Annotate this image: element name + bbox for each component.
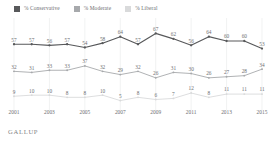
legend-label-conservative: % Conservative — [24, 6, 60, 11]
data-point-conservative-2002 — [31, 43, 33, 45]
data-point-liberal-2009 — [155, 99, 157, 101]
data-point-liberal-2005 — [84, 96, 86, 98]
value-label-moderate-2005: 37 — [82, 58, 88, 64]
data-point-moderate-2015 — [261, 68, 263, 70]
value-label-moderate-2015: 34 — [259, 62, 265, 68]
data-point-moderate-2007 — [119, 74, 121, 76]
x-axis-svg: 20012003200520072009201120132015 — [0, 104, 276, 118]
value-label-conservative-2004: 57 — [64, 37, 70, 43]
data-point-conservative-2008 — [137, 43, 139, 45]
data-point-moderate-2010 — [172, 71, 174, 73]
data-point-liberal-2001 — [13, 95, 15, 97]
x-tick-label-2009: 2009 — [150, 109, 161, 115]
data-point-liberal-2012 — [208, 96, 210, 98]
value-label-conservative-2002: 57 — [29, 37, 35, 43]
value-label-conservative-2003: 56 — [47, 38, 53, 44]
data-point-moderate-2004 — [66, 69, 68, 71]
value-label-liberal-2015: 11 — [259, 86, 264, 92]
data-point-conservative-2004 — [66, 43, 68, 45]
data-point-liberal-2011 — [190, 92, 192, 94]
value-label-conservative-2011: 56 — [188, 38, 194, 44]
value-label-conservative-2006: 58 — [100, 36, 106, 42]
value-label-conservative-2014: 60 — [242, 33, 248, 39]
value-label-conservative-2007: 64 — [118, 29, 124, 35]
value-label-moderate-2003: 33 — [47, 63, 53, 69]
legend-swatch-conservative — [14, 6, 20, 12]
value-label-conservative-2013: 60 — [224, 33, 230, 39]
value-label-liberal-2012: 8 — [208, 90, 211, 96]
data-point-conservative-2006 — [101, 42, 103, 44]
value-label-liberal-2013: 11 — [224, 86, 229, 92]
data-point-liberal-2010 — [172, 97, 174, 99]
data-point-conservative-2011 — [190, 44, 192, 46]
x-tick-label-2011: 2011 — [186, 109, 197, 115]
data-point-liberal-2008 — [137, 96, 139, 98]
legend-label-moderate: % Moderate — [84, 6, 112, 11]
value-label-moderate-2012: 26 — [206, 70, 212, 76]
data-point-moderate-2011 — [190, 73, 192, 75]
value-label-moderate-2011: 30 — [188, 66, 194, 72]
data-point-conservative-2009 — [155, 32, 157, 34]
data-point-liberal-2015 — [261, 93, 263, 95]
x-tick-label-2005: 2005 — [79, 109, 90, 115]
legend-item-conservative: % Conservative — [14, 6, 60, 12]
legend-item-moderate: % Moderate — [74, 6, 112, 12]
value-label-liberal-2003: 10 — [47, 88, 53, 94]
legend-label-liberal: % Liberal — [135, 6, 157, 11]
value-label-conservative-2015: 53 — [259, 41, 265, 47]
value-label-conservative-2008: 57 — [135, 37, 141, 43]
value-label-moderate-2009: 26 — [153, 70, 159, 76]
data-point-moderate-2001 — [13, 70, 15, 72]
value-label-conservative-2005: 54 — [82, 40, 88, 46]
data-point-moderate-2009 — [155, 77, 157, 79]
value-label-conservative-2010: 62 — [171, 31, 177, 37]
value-label-moderate-2001: 32 — [11, 64, 17, 70]
value-label-moderate-2008: 32 — [135, 64, 141, 70]
value-label-liberal-2011: 12 — [188, 85, 194, 91]
value-label-conservative-2009: 67 — [153, 26, 159, 32]
x-tick-label-2007: 2007 — [115, 109, 126, 115]
data-point-conservative-2003 — [48, 44, 50, 46]
source-attribution: GALLUP — [8, 128, 38, 135]
data-point-moderate-2002 — [31, 71, 33, 73]
legend-swatch-moderate — [74, 6, 80, 12]
data-point-conservative-2014 — [243, 40, 245, 42]
legend-swatch-liberal — [125, 6, 131, 12]
data-point-liberal-2013 — [226, 93, 228, 95]
data-point-conservative-2010 — [172, 38, 174, 40]
value-label-moderate-2002: 31 — [29, 65, 35, 71]
value-label-moderate-2014: 28 — [242, 68, 248, 74]
chart-container: % Conservative% Moderate% Liberal 575756… — [0, 0, 276, 149]
data-point-conservative-2012 — [208, 36, 210, 38]
value-label-liberal-2004: 8 — [66, 90, 69, 96]
value-label-moderate-2006: 32 — [100, 64, 106, 70]
plot-area: 5757565754586457676256646060533231333337… — [0, 18, 276, 110]
x-tick-label-2015: 2015 — [257, 109, 268, 115]
data-point-conservative-2005 — [84, 46, 86, 48]
value-label-liberal-2008: 8 — [137, 90, 140, 96]
value-label-moderate-2007: 29 — [118, 67, 124, 73]
value-label-conservative-2012: 64 — [206, 29, 212, 35]
data-point-liberal-2002 — [31, 94, 33, 96]
data-point-liberal-2003 — [48, 94, 50, 96]
line-chart-svg: 5757565754586457676256646060533231333337… — [0, 18, 276, 110]
x-tick-label-2013: 2013 — [221, 109, 232, 115]
data-point-conservative-2015 — [261, 47, 263, 49]
value-label-liberal-2006: 10 — [100, 88, 106, 94]
data-point-moderate-2005 — [84, 65, 86, 67]
data-point-moderate-2008 — [137, 70, 139, 72]
value-label-liberal-2002: 10 — [29, 88, 35, 94]
value-label-moderate-2013: 27 — [224, 69, 230, 75]
data-point-moderate-2013 — [226, 76, 228, 78]
data-point-moderate-2006 — [102, 70, 104, 72]
value-label-liberal-2014: 11 — [242, 86, 247, 92]
data-point-liberal-2014 — [243, 93, 245, 95]
x-tick-label-2003: 2003 — [44, 109, 55, 115]
x-axis: 20012003200520072009201120132015 — [0, 104, 276, 118]
data-point-liberal-2006 — [102, 94, 104, 96]
data-point-moderate-2012 — [208, 77, 210, 79]
data-point-conservative-2013 — [225, 40, 227, 42]
value-label-liberal-2009: 6 — [154, 92, 157, 98]
data-point-moderate-2003 — [48, 69, 50, 71]
value-label-moderate-2004: 33 — [64, 63, 70, 69]
